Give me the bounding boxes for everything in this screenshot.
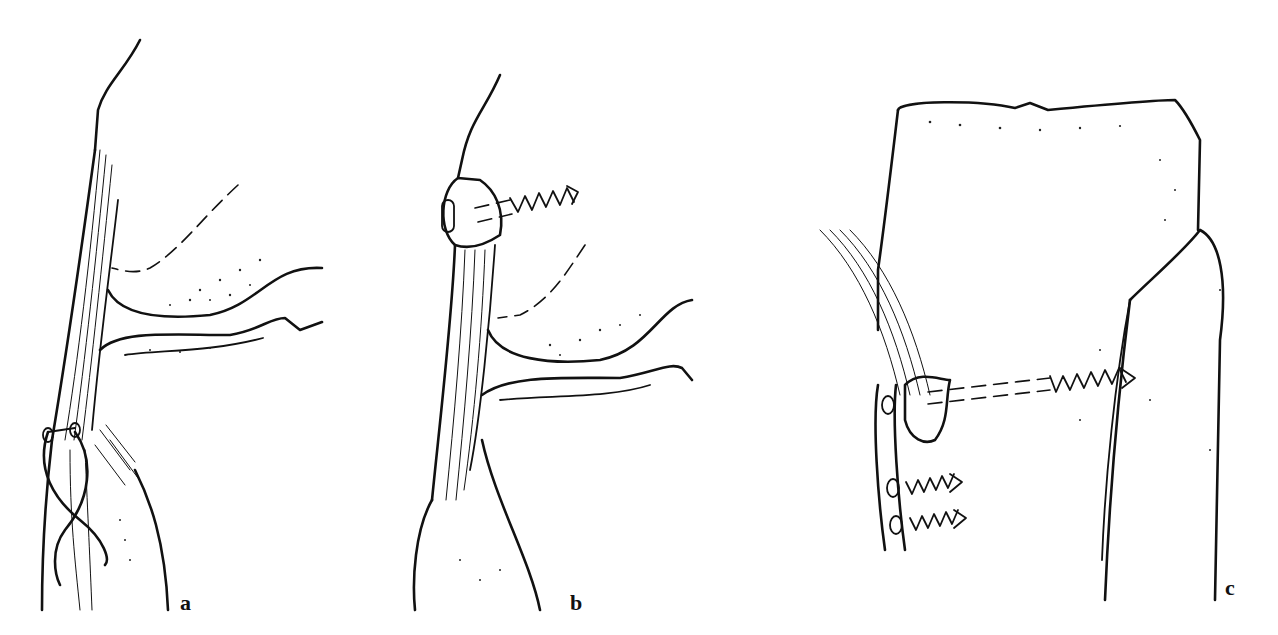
panel-a: a	[0, 0, 360, 635]
femoral-condyle-b	[488, 300, 692, 362]
screw-thread	[510, 188, 574, 212]
tibial-plateau	[100, 318, 322, 350]
panel-c-drawing	[800, 0, 1278, 635]
short-screw-2	[910, 510, 958, 530]
panel-label-a: a	[180, 590, 191, 616]
panel-label-b: b	[570, 590, 582, 616]
bone-fragment	[443, 178, 501, 247]
femoral-condyle	[108, 268, 322, 317]
patella-outline	[458, 75, 500, 178]
femur-outline	[95, 40, 140, 150]
panel-c: c	[800, 0, 1278, 635]
wire-loop	[44, 432, 107, 565]
short-screw-1	[906, 474, 954, 494]
tibia-outline	[898, 100, 1200, 230]
panel-b: b	[400, 0, 720, 635]
stipple-c	[929, 121, 1221, 451]
tibial-plateau-b	[482, 366, 692, 395]
panel-b-drawing	[400, 0, 720, 635]
panel-label-c: c	[1225, 575, 1235, 601]
fibula	[1200, 230, 1223, 600]
long-screw-thread	[1050, 368, 1126, 392]
panel-a-drawing	[0, 0, 360, 635]
